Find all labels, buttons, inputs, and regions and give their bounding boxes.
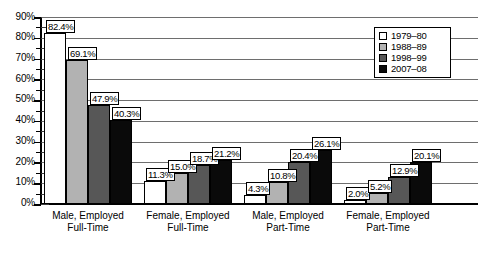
category-label-line2: Part-Time xyxy=(328,222,448,234)
bar xyxy=(344,200,366,204)
y-tick-label: 50% xyxy=(16,94,35,104)
data-label: 21.2% xyxy=(212,147,241,160)
legend-swatch-icon xyxy=(379,54,387,62)
y-major-tick xyxy=(34,38,41,40)
y-tick-label: 40% xyxy=(16,115,35,125)
category-label-line1: Male, Employed xyxy=(252,210,324,221)
data-label: 47.9% xyxy=(90,92,119,105)
gridline xyxy=(42,17,478,18)
legend-item[interactable]: 1998–99 xyxy=(379,53,446,63)
bar xyxy=(110,120,132,204)
y-major-tick xyxy=(34,121,41,123)
bar xyxy=(88,105,110,205)
gridline xyxy=(42,79,478,80)
data-label: 26.1% xyxy=(312,137,341,150)
data-label: 5.2% xyxy=(368,180,392,193)
legend-item-label: 2007–08 xyxy=(391,64,427,74)
data-label: 10.8% xyxy=(268,169,297,182)
legend-swatch-icon xyxy=(379,65,387,73)
y-tick-label: 90% xyxy=(16,12,35,22)
data-label: 2.0% xyxy=(346,187,370,200)
y-major-tick xyxy=(34,79,41,81)
y-major-tick xyxy=(34,59,41,61)
data-label: 20.4% xyxy=(290,149,319,162)
data-label: 40.3% xyxy=(112,107,141,120)
legend-item[interactable]: 1988–89 xyxy=(379,42,446,52)
bar xyxy=(44,33,66,204)
x-axis-category-label: Female, EmployedPart-Time xyxy=(328,210,448,234)
data-label: 20.1% xyxy=(412,149,441,162)
bar xyxy=(210,160,232,204)
y-tick-label: 80% xyxy=(16,32,35,42)
y-major-tick xyxy=(34,162,41,164)
y-tick-label: 10% xyxy=(16,177,35,187)
y-major-tick xyxy=(34,100,41,102)
legend-item-label: 1988–89 xyxy=(391,42,427,52)
bar xyxy=(244,195,266,204)
data-label: 69.1% xyxy=(68,47,97,60)
y-tick-label: 60% xyxy=(16,74,35,84)
legend-swatch-icon xyxy=(379,43,387,51)
legend-item[interactable]: 1979–80 xyxy=(379,31,446,41)
data-label: 82.4% xyxy=(46,20,75,33)
y-major-tick xyxy=(34,183,41,185)
y-tick-label: 70% xyxy=(16,53,35,63)
category-label-line1: Female, Employed xyxy=(346,210,429,221)
data-label: 4.3% xyxy=(246,182,270,195)
y-tick-label: 30% xyxy=(16,136,35,146)
legend-item[interactable]: 2007–08 xyxy=(379,64,446,74)
category-label-line1: Male, Employed xyxy=(52,210,124,221)
legend-item-label: 1998–99 xyxy=(391,53,427,63)
category-label-line1: Female, Employed xyxy=(146,210,229,221)
bar xyxy=(144,181,166,205)
legend-item-label: 1979–80 xyxy=(391,31,427,41)
y-major-tick xyxy=(34,17,41,19)
bar-chart: 90% 80% 70% 60% 50% 40% 30% 20% 10% 0% 8… xyxy=(0,0,484,261)
legend-swatch-icon xyxy=(379,32,387,40)
bar xyxy=(66,60,88,204)
y-tick-label: 0% xyxy=(21,198,35,208)
data-label: 12.9% xyxy=(390,164,419,177)
y-tick-label: 20% xyxy=(16,157,35,167)
y-major-tick xyxy=(34,142,41,144)
y-axis-rung xyxy=(41,204,49,205)
y-major-tick xyxy=(34,204,41,206)
legend: 1979–80 1988–89 1998–99 2007–08 xyxy=(374,27,451,78)
